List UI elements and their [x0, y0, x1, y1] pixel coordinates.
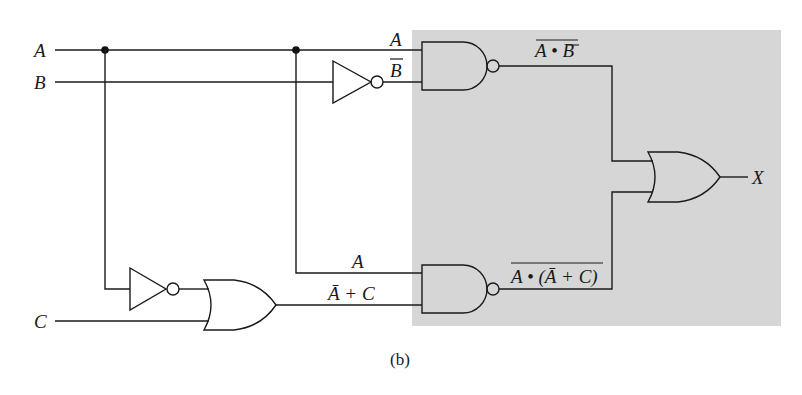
label-nand1-in-b-bar: B [390, 60, 402, 81]
wire-a-to-nand2 [296, 50, 422, 273]
figure-caption: (b) [390, 350, 410, 369]
input-label-a: A [32, 40, 46, 61]
not-gate-1 [333, 61, 383, 103]
input-label-b: B [34, 72, 46, 93]
label-nand2-in-sum: Ā + C [326, 283, 375, 304]
label-nand1-out: A • B [533, 40, 574, 61]
wire-a-to-inv2 [105, 50, 130, 289]
label-nand1-in-a: A [388, 29, 402, 50]
input-label-c: C [34, 311, 47, 332]
or-gate-1 [204, 280, 276, 330]
not-gate-2 [130, 268, 179, 310]
output-label-x: X [751, 167, 765, 188]
label-nand2-in-a: A [350, 251, 364, 272]
logic-circuit-diagram: A B C X A B [0, 0, 802, 395]
label-nand2-out: A • (Ā + C) [509, 266, 598, 288]
